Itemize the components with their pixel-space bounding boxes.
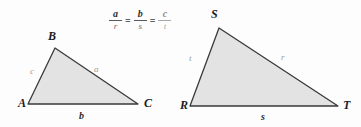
vertex-label-b: B [48,30,56,42]
similar-triangles-figure: a r = b s = c t A B C c a b R S T t r s [0,0,361,127]
side-label-c: c [30,67,34,76]
proportion-equation: a r = b s = c t [108,9,172,31]
fraction-c-over-t: c t [158,9,171,31]
fraction-numerator-a: a [110,9,121,20]
side-label-t: t [189,54,192,63]
right-triangle-shape [190,28,338,106]
fraction-denominator-r: r [111,21,121,31]
equals-sign-2: = [150,15,156,26]
vertex-label-a: A [18,97,26,109]
fraction-b-over-s: b s [134,9,147,31]
fraction-denominator-s: s [135,21,145,31]
side-label-r: r [281,53,285,62]
fraction-numerator-c: c [160,9,170,20]
fraction-a-over-r: a r [109,9,122,31]
left-triangle-shape [28,48,138,104]
side-label-b: b [79,111,84,121]
vertex-label-t: T [343,99,350,111]
vertex-label-c: C [144,97,152,109]
vertex-label-r: R [180,99,188,111]
vertex-label-s: S [211,8,218,20]
fraction-numerator-b: b [135,9,146,20]
side-label-s: s [261,112,265,122]
side-label-a: a [94,65,99,74]
equals-sign-1: = [125,15,131,26]
fraction-denominator-t: t [161,21,170,31]
